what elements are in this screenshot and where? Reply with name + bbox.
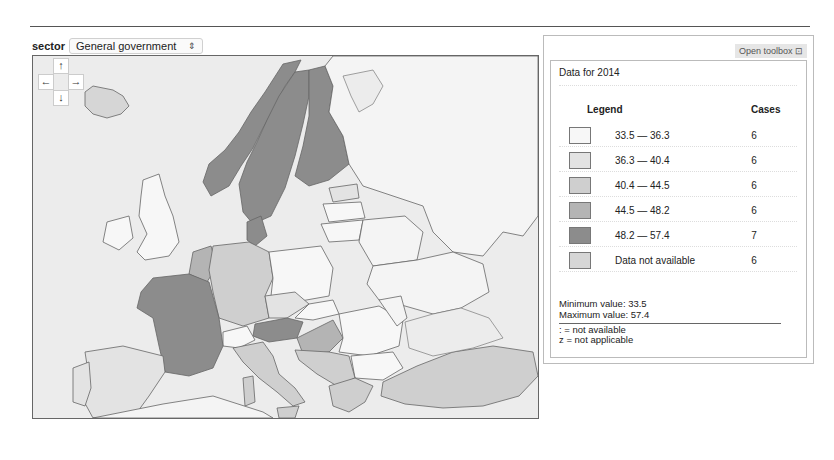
open-toolbox-button[interactable]: Open toolbox ⊡ bbox=[735, 44, 807, 58]
select-arrows-icon: ⇕ bbox=[188, 39, 196, 53]
pan-down-button[interactable]: ↓ bbox=[53, 90, 69, 106]
legend-row: 36.3 — 40.46 bbox=[559, 150, 797, 172]
region-uk[interactable] bbox=[137, 174, 179, 260]
top-divider bbox=[30, 26, 810, 27]
row-divider bbox=[559, 146, 797, 147]
region-bulgaria[interactable] bbox=[351, 352, 403, 380]
legend-row: Data not available6 bbox=[559, 250, 797, 272]
legend-swatch bbox=[569, 152, 591, 169]
region-germany[interactable] bbox=[209, 242, 273, 326]
cases-header: Cases bbox=[751, 104, 780, 115]
legend-cases: 6 bbox=[739, 205, 769, 216]
legend-cases: 6 bbox=[739, 130, 769, 141]
legend-cases: 7 bbox=[739, 230, 769, 241]
legend-range: 40.4 — 44.5 bbox=[615, 180, 669, 191]
row-divider bbox=[559, 246, 797, 247]
row-divider bbox=[559, 221, 797, 222]
legend-row: 33.5 — 36.36 bbox=[559, 125, 797, 147]
sector-filter: sector General government ⇕ bbox=[32, 38, 203, 54]
legend-panel: Open toolbox ⊡ Data for 2014 Legend Case… bbox=[543, 35, 814, 364]
legend-swatch bbox=[569, 252, 591, 269]
sector-select[interactable]: General government ⇕ bbox=[69, 38, 203, 54]
sector-label: sector bbox=[32, 40, 65, 52]
legend-swatch bbox=[569, 127, 591, 144]
region-poland[interactable] bbox=[269, 246, 333, 302]
region-austria[interactable] bbox=[253, 318, 303, 342]
value-stats: Minimum value: 33.5 Maximum value: 57.4 bbox=[559, 298, 649, 320]
legend-row: 40.4 — 44.56 bbox=[559, 175, 797, 197]
row-divider bbox=[559, 271, 797, 272]
row-divider bbox=[559, 196, 797, 197]
legend-cases: 6 bbox=[739, 180, 769, 191]
pan-right-button[interactable]: → bbox=[68, 74, 84, 90]
title-divider bbox=[559, 85, 797, 86]
legend-swatch bbox=[569, 177, 591, 194]
legend-swatch bbox=[569, 227, 591, 244]
pan-up-button[interactable]: ↑ bbox=[53, 58, 69, 74]
legend-row: 48.2 — 57.47 bbox=[559, 225, 797, 247]
region-sicily[interactable] bbox=[277, 406, 299, 418]
legend-header: Legend bbox=[587, 104, 623, 115]
region-ireland[interactable] bbox=[103, 216, 133, 250]
sector-select-value: General government bbox=[76, 39, 176, 53]
data-year-title: Data for 2014 bbox=[559, 67, 620, 78]
legend-swatch bbox=[569, 202, 591, 219]
notes: : = not available z = not applicable bbox=[559, 325, 633, 345]
note-not-applicable: z = not applicable bbox=[559, 335, 633, 345]
region-turkey[interactable] bbox=[381, 346, 538, 408]
region-denmark[interactable] bbox=[247, 216, 267, 246]
legend-range: 33.5 — 36.3 bbox=[615, 130, 669, 141]
min-value: Minimum value: 33.5 bbox=[559, 298, 649, 309]
region-hungary[interactable] bbox=[297, 320, 343, 354]
pan-left-button[interactable]: ← bbox=[38, 74, 54, 90]
legend-box: Data for 2014 Legend Cases 33.5 — 36.363… bbox=[550, 60, 807, 358]
map-svg[interactable] bbox=[33, 56, 538, 418]
legend-row: 44.5 — 48.26 bbox=[559, 200, 797, 222]
max-value: Maximum value: 57.4 bbox=[559, 309, 649, 320]
legend-cases: 6 bbox=[739, 155, 769, 166]
region-estonia[interactable] bbox=[329, 184, 359, 202]
legend-range: 36.3 — 40.4 bbox=[615, 155, 669, 166]
region-italy[interactable] bbox=[233, 342, 305, 406]
legend-range: 48.2 — 57.4 bbox=[615, 230, 669, 241]
choropleth-map[interactable]: ↑ ← → ↓ bbox=[32, 55, 539, 419]
legend-range: 44.5 — 48.2 bbox=[615, 205, 669, 216]
region-latvia[interactable] bbox=[323, 202, 365, 222]
region-sardinia[interactable] bbox=[243, 376, 255, 406]
region-lithuania[interactable] bbox=[321, 220, 363, 242]
legend-range: Data not available bbox=[615, 255, 695, 266]
region-iceland[interactable] bbox=[85, 86, 129, 118]
row-divider bbox=[559, 171, 797, 172]
region-belarus[interactable] bbox=[359, 216, 423, 266]
legend-cases: 6 bbox=[739, 255, 769, 266]
